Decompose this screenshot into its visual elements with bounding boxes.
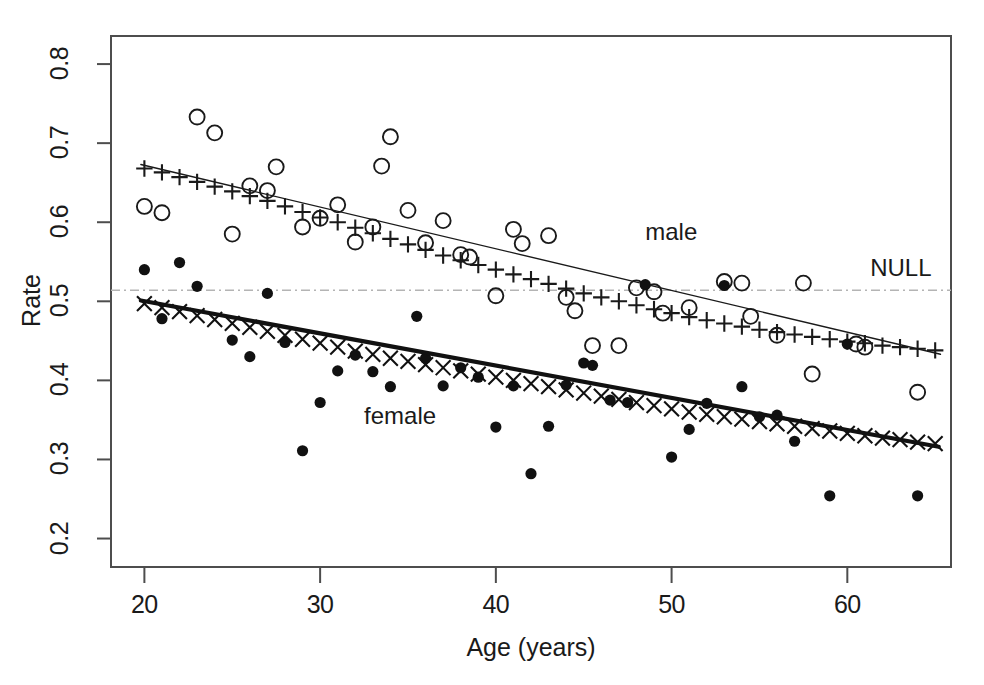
data-point-plus (892, 339, 908, 355)
data-point-plus (470, 257, 486, 273)
scatter-plot-canvas (0, 0, 984, 685)
data-point-open-circle (796, 276, 811, 291)
chart-figure: Rate Age (years) 0.20.30.40.50.60.70.820… (0, 0, 984, 685)
data-point-filled-circle (490, 421, 501, 432)
data-point-cross (313, 336, 328, 351)
data-series-layer (136, 110, 943, 502)
data-point-plus (523, 271, 539, 287)
data-point-filled-circle (719, 280, 730, 291)
data-point-filled-circle (315, 397, 326, 408)
data-point-open-circle (137, 199, 152, 214)
data-point-cross (541, 379, 556, 394)
x-tick-label: 50 (642, 590, 702, 619)
plot-border (111, 36, 951, 567)
data-point-cross (330, 340, 345, 355)
data-point-open-circle (910, 385, 925, 400)
null-line-label: NULL (870, 254, 931, 282)
data-point-filled-circle (438, 380, 449, 391)
data-point-filled-circle (684, 424, 695, 435)
data-point-plus (769, 324, 785, 340)
data-point-plus (611, 293, 627, 309)
y-tick-label: 0.2 (45, 508, 74, 568)
data-point-plus (699, 312, 715, 328)
x-tick-label: 30 (290, 590, 350, 619)
data-point-filled-circle (525, 468, 536, 479)
data-point-open-circle (805, 367, 820, 382)
data-point-plus (505, 266, 521, 282)
data-point-plus (382, 231, 398, 247)
data-point-plus (294, 204, 310, 220)
data-point-filled-circle (640, 279, 651, 290)
data-point-filled-circle (666, 451, 677, 462)
data-point-cross (365, 347, 380, 362)
data-point-open-circle (734, 276, 749, 291)
data-point-filled-circle (332, 365, 343, 376)
data-point-open-circle (506, 222, 521, 237)
data-point-filled-circle (543, 421, 554, 432)
data-point-plus (400, 236, 416, 252)
data-point-cross (488, 370, 503, 385)
data-point-plus (786, 326, 802, 342)
data-point-plus (329, 214, 345, 230)
data-point-open-circle (462, 250, 477, 265)
y-axis-title: Rate (17, 225, 46, 375)
data-point-plus (628, 297, 644, 313)
data-point-plus (804, 329, 820, 345)
data-point-open-circle (515, 236, 530, 251)
data-point-cross (576, 386, 591, 401)
data-point-cross (524, 376, 539, 391)
x-tick-label: 60 (817, 590, 877, 619)
data-point-filled-circle (736, 381, 747, 392)
data-point-plus (734, 318, 750, 334)
data-point-open-circle (295, 219, 310, 234)
data-point-open-circle (374, 159, 389, 174)
data-point-cross (734, 412, 749, 427)
data-point-open-circle (400, 203, 415, 218)
data-point-open-circle (611, 338, 626, 353)
data-point-plus (646, 301, 662, 317)
data-point-filled-circle (367, 366, 378, 377)
x-axis-title: Age (years) (431, 633, 631, 662)
data-point-open-circle (541, 228, 556, 243)
data-point-filled-circle (192, 281, 203, 292)
data-point-open-circle (225, 227, 240, 242)
data-point-filled-circle (411, 311, 422, 322)
y-tick-label: 0.6 (45, 192, 74, 252)
data-point-cross (664, 401, 679, 416)
data-point-filled-circle (789, 436, 800, 447)
data-point-plus (365, 225, 381, 241)
data-point-plus (558, 280, 574, 296)
data-point-filled-circle (508, 380, 519, 391)
data-point-open-circle (269, 159, 284, 174)
data-point-filled-circle (824, 490, 835, 501)
data-point-filled-circle (842, 338, 853, 349)
female-series-label: female (364, 402, 436, 430)
data-point-cross (647, 398, 662, 413)
data-point-filled-circle (297, 445, 308, 456)
data-point-plus (171, 169, 187, 185)
x-axis-ticks (144, 567, 847, 583)
data-point-open-circle (383, 129, 398, 144)
data-point-cross (717, 409, 732, 424)
data-point-plus (347, 220, 363, 236)
data-point-plus (453, 252, 469, 268)
data-point-open-circle (190, 110, 205, 125)
data-point-open-circle (567, 303, 582, 318)
x-tick-label: 20 (114, 590, 174, 619)
y-tick-label: 0.3 (45, 429, 74, 489)
x-tick-label: 40 (466, 590, 526, 619)
data-point-cross (295, 332, 310, 347)
plot-frame (111, 36, 951, 567)
data-point-plus (576, 285, 592, 301)
data-point-open-circle (585, 338, 600, 353)
data-point-plus (593, 289, 609, 305)
data-point-filled-circle (227, 334, 238, 345)
male-series-label: male (645, 218, 697, 246)
data-point-open-circle (207, 125, 222, 140)
data-point-cross (383, 351, 398, 366)
data-point-cross (682, 405, 697, 420)
y-tick-label: 0.4 (45, 350, 74, 410)
y-tick-label: 0.7 (45, 113, 74, 173)
data-point-filled-circle (174, 257, 185, 268)
y-axis-ticks (97, 64, 111, 538)
